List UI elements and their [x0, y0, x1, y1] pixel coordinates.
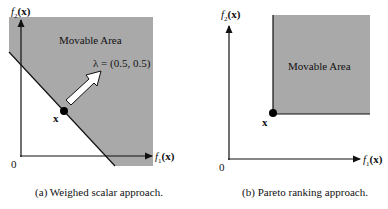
panel-a-origin-label: 0: [11, 158, 17, 170]
panel-a-region-label: Movable Area: [59, 34, 122, 46]
panel-a-point-label: x: [53, 112, 59, 124]
panel-b-caption: (b) Pareto ranking approach.: [242, 186, 368, 199]
panel-b-x-axis-label: f1(x): [363, 153, 383, 168]
panel-b-y-axis-label: f2(x): [221, 8, 241, 23]
panel-b-origin-label: 0: [219, 161, 225, 173]
panel-b-region-label: Movable Area: [288, 60, 351, 72]
panel-b-point-label: x: [262, 116, 268, 128]
panel-a-weighed-scalar: Movable Area λ = (0.5, 0.5) x 0 f2(x) f1…: [9, 5, 175, 199]
panel-a-x-axis-label: f1(x): [155, 150, 175, 165]
panel-a-lambda-label: λ = (0.5, 0.5): [93, 57, 151, 70]
panel-a-caption: (a) Weighed scalar approach.: [35, 186, 163, 199]
panel-b-pareto-ranking: Movable Area x 0 f2(x) f1(x) (b) Pareto …: [219, 8, 383, 199]
figure-canvas: Movable Area λ = (0.5, 0.5) x 0 f2(x) f1…: [0, 0, 388, 209]
panel-b-solution-point: [269, 109, 277, 117]
panel-a-solution-point: [60, 107, 68, 115]
